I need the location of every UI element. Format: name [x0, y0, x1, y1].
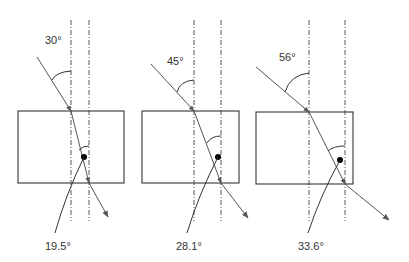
incident-ray — [256, 67, 309, 112]
refracted-ray — [71, 111, 89, 183]
refracted-angle-label: 28.1° — [176, 240, 202, 252]
incident-angle-arc — [52, 71, 71, 80]
incident-angle-label: 56° — [279, 51, 296, 63]
glass-block — [256, 112, 353, 184]
incident-angle-arc — [285, 73, 309, 92]
diagram-canvas: 30° 19.5° 45° 28.1° — [0, 0, 409, 262]
refracted-angle-arc — [207, 136, 221, 143]
refracted-ray — [194, 111, 221, 183]
refracted-angle-label: 33.6° — [298, 240, 324, 252]
panel-2: 45° 28.1° — [142, 20, 248, 252]
incident-ray — [151, 64, 194, 111]
refracted-angle-label: 19.5° — [45, 240, 71, 252]
emergent-ray — [345, 184, 389, 220]
panel-3: 56° 33.6° — [256, 20, 389, 252]
label-leader-line — [187, 157, 218, 233]
refraction-diagram: 30° 19.5° 45° 28.1° — [0, 0, 409, 262]
glass-block — [142, 111, 239, 183]
panel-1: 30° 19.5° — [18, 20, 124, 252]
label-leader-line — [308, 160, 340, 233]
incident-angle-label: 45° — [167, 55, 184, 67]
incident-ray — [37, 57, 71, 111]
refracted-angle-arc — [328, 146, 345, 151]
incident-angle-arc — [177, 80, 194, 92]
incident-angle-label: 30° — [45, 34, 62, 46]
label-leader-line — [55, 157, 84, 233]
emergent-ray — [221, 183, 248, 218]
emergent-ray — [89, 183, 108, 217]
refracted-ray — [309, 112, 345, 184]
